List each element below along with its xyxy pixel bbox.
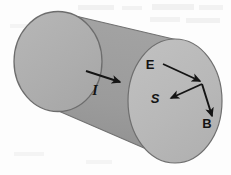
magnetic-field-label: B [202, 116, 211, 131]
cylinder-left-cap [14, 12, 102, 112]
figure-canvas: I E S B [0, 0, 231, 175]
current-label: I [91, 83, 98, 98]
electric-field-label: E [146, 57, 155, 72]
cylinder-diagram: I E S B [0, 0, 231, 175]
poynting-label: S [151, 91, 160, 106]
